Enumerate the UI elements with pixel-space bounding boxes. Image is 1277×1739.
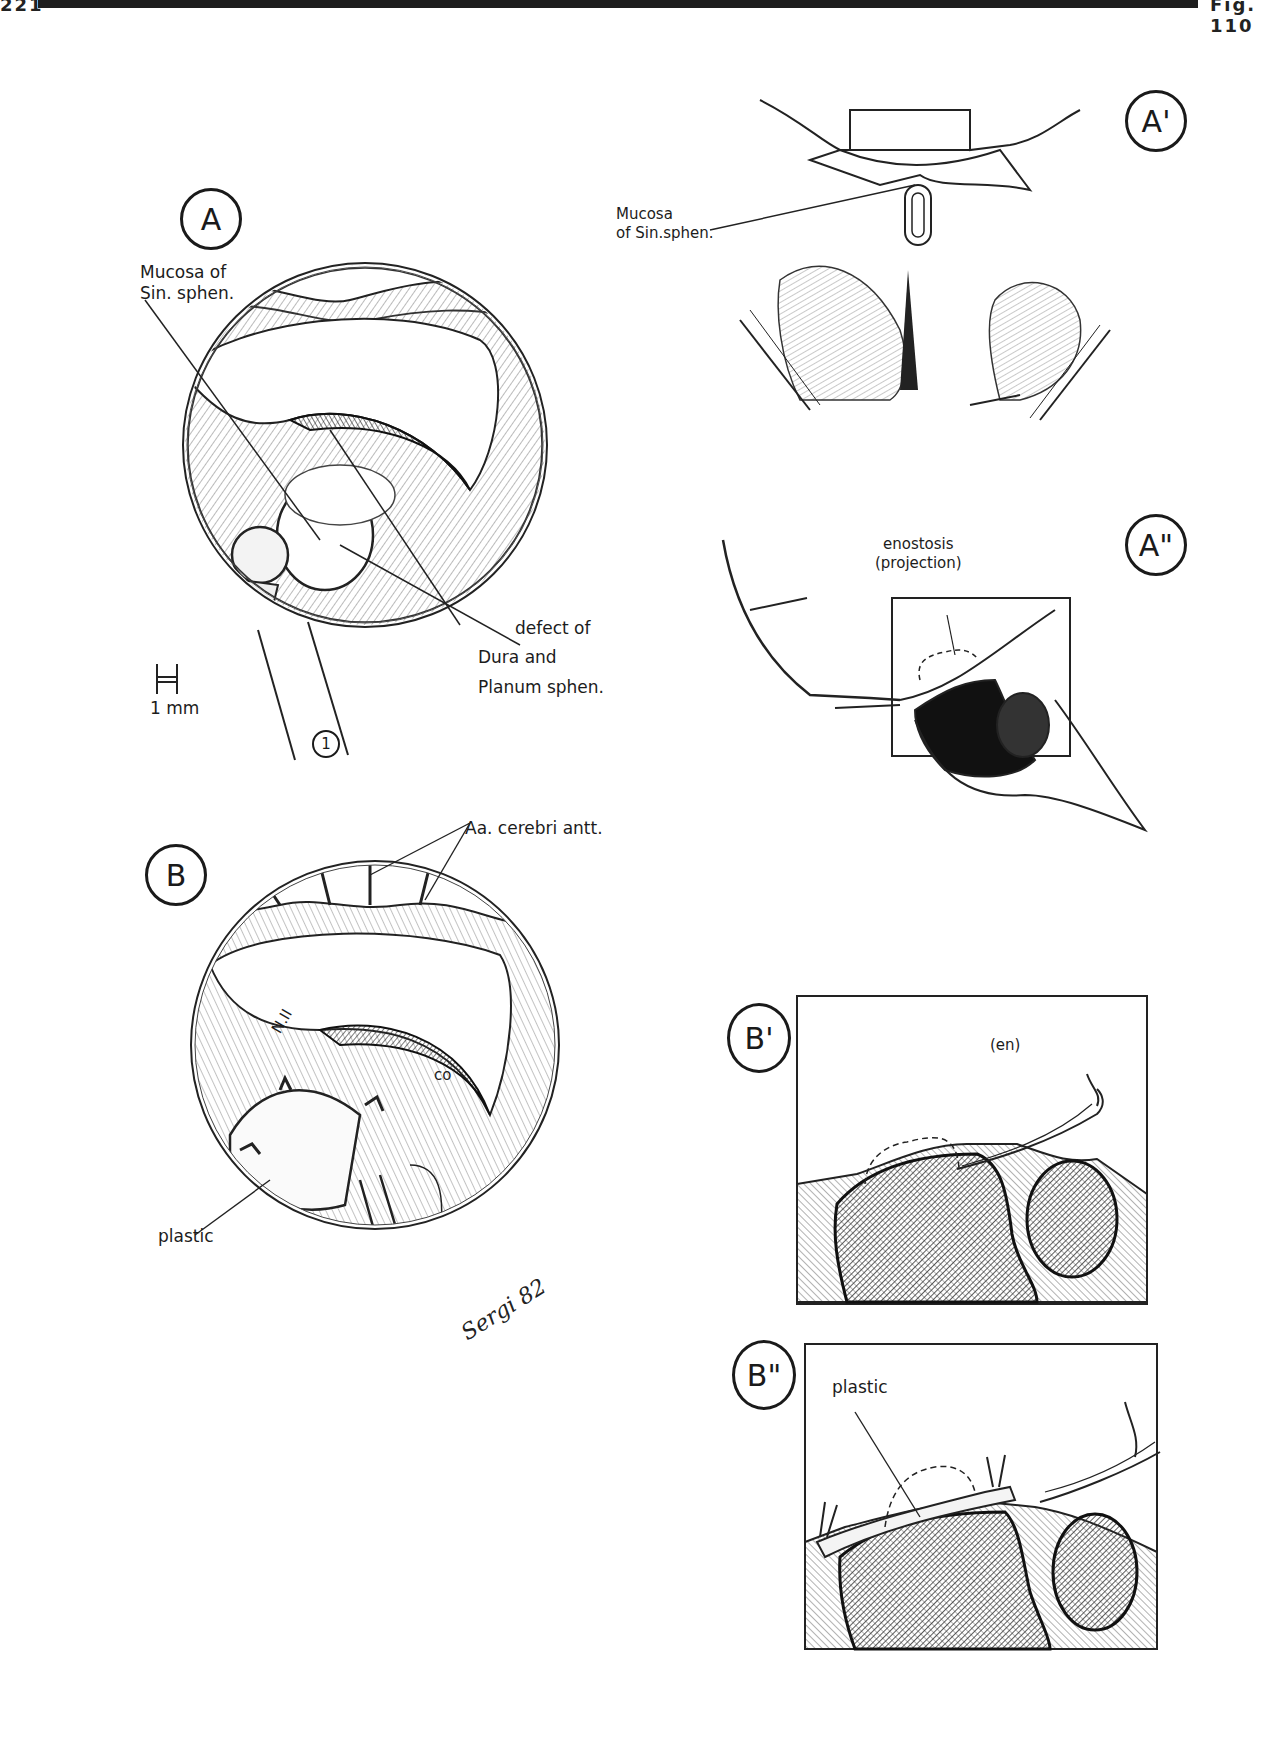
label-plastic: plastic: [158, 1226, 214, 1247]
panel-badge-b-double-prime: B": [732, 1340, 796, 1410]
panel-badge-b-prime: B': [727, 1003, 791, 1073]
label-dura-and: Dura and: [478, 647, 557, 668]
scale-bar-icon: [155, 662, 179, 696]
leader-line-mucosa: [710, 180, 920, 240]
label-co: co: [434, 1066, 451, 1085]
panel-a-double-prime-illustration: [715, 530, 1175, 840]
label-defect-of: defect of: [515, 618, 591, 639]
header-rule: [38, 0, 1198, 8]
scale-label: 1 mm: [150, 698, 199, 719]
panel-a-prime-illustration: [740, 100, 1120, 420]
label-plastic-cross-section: plastic: [832, 1377, 888, 1398]
panel-b-prime-illustration: [797, 994, 1157, 1304]
label-mucosa-of-sin-sphen: Mucosa of Sin.sphen.: [616, 205, 714, 243]
panel-badge-a: A: [180, 188, 242, 250]
label-planum-sphen: Planum sphen.: [478, 677, 604, 698]
label-en: (en): [990, 1036, 1020, 1055]
figure-reference: Fig. 110: [1210, 0, 1277, 36]
panel-badge-a-prime: A': [1125, 90, 1187, 152]
panel-b-illustration: [170, 835, 590, 1315]
instrument-number-badge: 1: [312, 730, 340, 758]
